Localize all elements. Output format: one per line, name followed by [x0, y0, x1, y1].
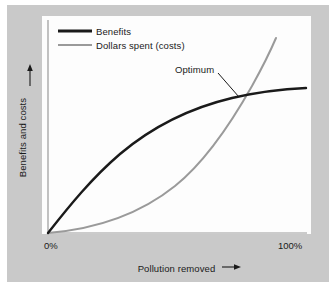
x-axis-title: Pollution removed — [42, 263, 311, 274]
annotation-optimum: Optimum — [175, 64, 214, 75]
y-axis-title: Benefits and costs — [17, 53, 28, 223]
series-line-costs — [48, 38, 276, 233]
x-axis-tick-min: 0% — [44, 240, 58, 251]
series-line-benefits — [48, 88, 306, 233]
chart-figure: Benefits and costs Pollution removed 0% … — [0, 0, 336, 291]
legend-item-benefits: Benefits — [96, 26, 131, 37]
optimum-leader-line — [218, 73, 239, 97]
legend-item-costs: Dollars spent (costs) — [96, 40, 185, 51]
x-axis-tick-max: 100% — [278, 240, 302, 251]
y-axis-arrow-icon — [27, 64, 33, 86]
